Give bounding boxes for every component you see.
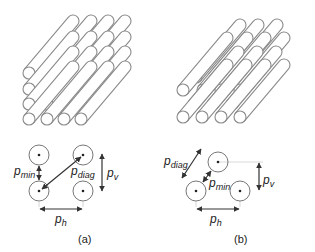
inline-tube-bundle	[23, 15, 131, 125]
staggered-tube-bundle	[177, 19, 290, 123]
label-p-min-a: pmin	[14, 165, 35, 180]
label-p-min-b: pmin	[209, 177, 230, 192]
label-p-v-b: pv	[263, 174, 274, 189]
inline-pitch-arrows	[39, 154, 102, 209]
caption-b: (b)	[234, 234, 247, 245]
label-p-diag-b: pdiag	[164, 155, 188, 170]
tube-bundle-figure	[0, 0, 315, 252]
label-p-h-a: ph	[55, 213, 67, 228]
label-p-h-b: ph	[210, 213, 222, 228]
label-p-diag-a: pdiag	[71, 165, 95, 180]
caption-a: (a)	[78, 234, 91, 245]
label-p-v-a: pv	[107, 167, 118, 182]
